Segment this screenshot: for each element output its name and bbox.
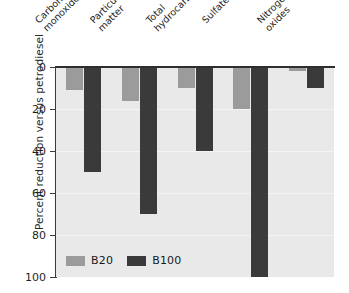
y-axis-tick-label: 20 [32, 103, 46, 116]
y-axis-tick-label: 80 [32, 229, 46, 242]
y-axis-tick-label: 100 [25, 271, 46, 284]
plot-area [56, 67, 334, 277]
bar-b20-particulate-matter [122, 67, 139, 101]
bar-b20-carbon-monoxide [66, 67, 83, 90]
bar-b100-carbon-monoxide [84, 67, 101, 172]
zero-baseline [56, 66, 335, 68]
y-axis-tick-label: 0 [39, 61, 46, 74]
bar-b20-sulfates [233, 67, 250, 109]
y-axis-tick [50, 109, 56, 110]
bar-b100-nitrogen-oxides [307, 67, 324, 88]
gridline [56, 193, 334, 194]
legend-swatch-b20 [66, 256, 85, 266]
y-axis-tick-label: 60 [32, 187, 46, 200]
y-axis-tick-label: 40 [32, 145, 46, 158]
legend-entry-b20: B20 [66, 254, 113, 267]
bar-b20-nitrogen-oxides [289, 67, 306, 71]
legend-entry-b100: B100 [127, 254, 181, 267]
gridline [56, 235, 334, 236]
y-axis-tick [50, 67, 56, 68]
bar-b100-total-hydrocarbons [196, 67, 213, 151]
y-axis-title: Percent reduction versus petrodiesel [33, 17, 45, 247]
chart-legend: B20B100 [66, 254, 182, 267]
bar-b100-particulate-matter [140, 67, 157, 214]
bar-chart: Percent reduction versus petrodiesel 020… [0, 0, 349, 293]
y-axis-tick [50, 277, 56, 278]
bar-b20-total-hydrocarbons [178, 67, 195, 88]
y-axis-tick [50, 235, 56, 236]
legend-swatch-b100 [127, 256, 146, 266]
y-axis-tick [50, 193, 56, 194]
y-axis-tick [50, 151, 56, 152]
legend-label: B100 [152, 254, 181, 267]
bar-b100-sulfates [251, 67, 268, 277]
legend-label: B20 [91, 254, 113, 267]
